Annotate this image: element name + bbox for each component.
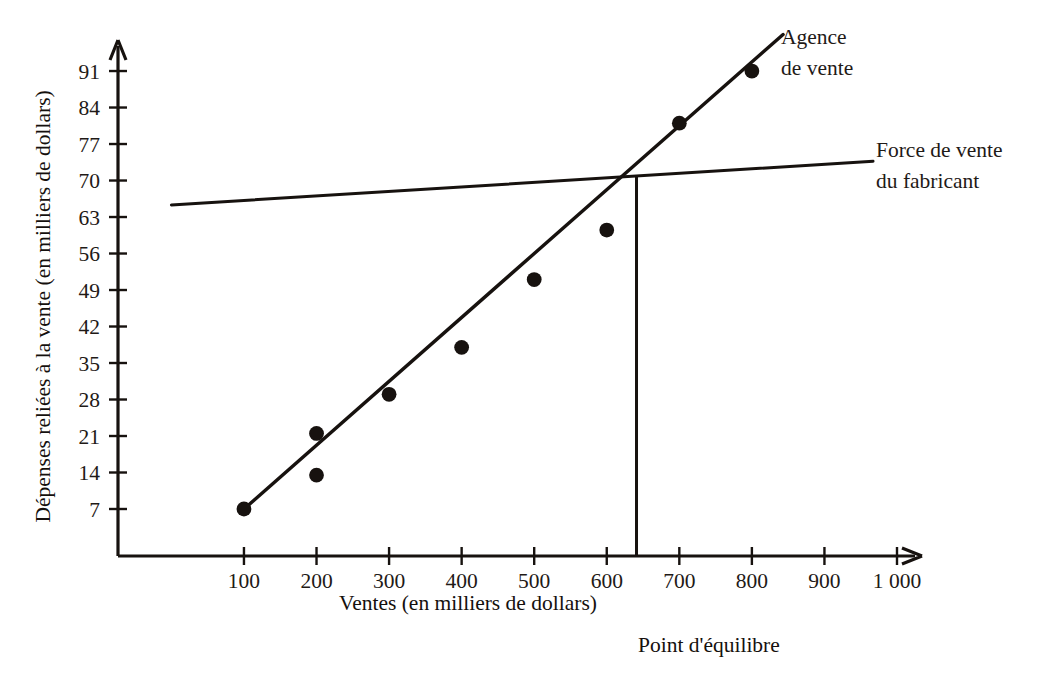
x-tick-label: 200 <box>300 569 332 593</box>
data-point <box>527 272 542 287</box>
chart-canvas: 7142128354249566370778491 10020030040050… <box>0 0 1037 678</box>
y-tick-label: 14 <box>79 461 101 485</box>
series-label-agence-line1: Agence <box>781 25 847 49</box>
data-point <box>309 426 324 441</box>
y-tick-label: 49 <box>79 279 101 303</box>
x-tick-group: 1002003004005006007008009001 000 <box>228 547 921 593</box>
y-tick-label: 7 <box>89 498 100 522</box>
y-tick-label: 77 <box>79 133 101 157</box>
data-point <box>672 116 687 131</box>
x-tick-label: 1 000 <box>873 569 921 593</box>
data-point <box>237 502 252 517</box>
x-tick-label: 500 <box>518 569 550 593</box>
y-tick-label: 42 <box>79 315 101 339</box>
x-axis-group <box>118 548 922 564</box>
data-point <box>454 340 469 355</box>
y-axis-title: Dépenses reliées à la vente (en milliers… <box>31 103 56 523</box>
y-tick-label: 91 <box>79 60 101 84</box>
y-tick-label: 35 <box>79 352 101 376</box>
series-line-agence-de-vente <box>244 35 783 509</box>
y-tick-label: 70 <box>79 169 101 193</box>
series-label-agence: Agence de vente <box>781 25 853 80</box>
y-tick-label: 28 <box>79 388 101 412</box>
series-label-force-line1: Force de vente <box>876 138 1003 162</box>
x-tick-label: 900 <box>808 569 840 593</box>
x-tick-label: 300 <box>373 569 405 593</box>
x-tick-label: 700 <box>663 569 695 593</box>
x-tick-label: 400 <box>446 569 478 593</box>
series-label-agence-line2: de vente <box>781 56 853 80</box>
data-point <box>309 468 324 483</box>
y-tick-label: 63 <box>79 206 101 230</box>
y-tick-label: 84 <box>79 96 101 120</box>
break-even-label: Point d'équilibre <box>638 633 780 657</box>
y-tick-label: 56 <box>79 242 101 266</box>
chart-figure: 7142128354249566370778491 10020030040050… <box>0 0 1037 678</box>
x-tick-label: 100 <box>228 569 260 593</box>
data-point <box>382 387 397 402</box>
y-axis-group <box>110 40 126 556</box>
series-label-force-line2: du fabricant <box>876 169 979 193</box>
x-tick-label: 600 <box>591 569 623 593</box>
x-axis-title: Ventes (en milliers de dollars) <box>339 591 597 615</box>
x-tick-label: 800 <box>736 569 768 593</box>
y-tick-label: 21 <box>79 425 101 449</box>
y-tick-group: 7142128354249566370778491 <box>79 60 128 522</box>
data-point <box>599 223 614 238</box>
data-point <box>744 64 759 79</box>
series-label-force-de-vente: Force de vente du fabricant <box>876 138 1003 193</box>
series-line-force-de-vente <box>171 161 873 205</box>
